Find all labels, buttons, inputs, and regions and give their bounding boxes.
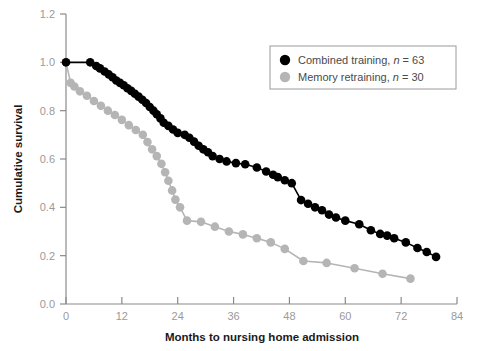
data-point-marker: [211, 222, 220, 231]
data-point-marker: [90, 97, 99, 106]
y-tick-label: 1.0: [40, 56, 55, 68]
y-tick-label: 0.0: [40, 298, 55, 310]
data-point-marker: [197, 218, 206, 227]
y-tick-label: 0.4: [40, 201, 55, 213]
data-point-marker: [168, 186, 177, 195]
data-point-marker: [413, 244, 422, 253]
legend-label-memory-retraining: Memory retraining, n = 30: [298, 71, 424, 83]
data-point-marker: [132, 126, 141, 135]
data-point-marker: [176, 203, 185, 212]
data-point-marker: [406, 274, 415, 283]
y-tick-label: 0.8: [40, 105, 55, 117]
data-point-marker: [164, 176, 173, 185]
data-point-marker: [280, 245, 289, 254]
y-tick-labels: 0.00.20.40.60.81.01.2: [40, 8, 55, 310]
series-line: [66, 62, 436, 257]
data-point-marker: [157, 160, 166, 169]
data-point-marker: [355, 220, 364, 229]
y-tick-label: 0.6: [40, 153, 55, 165]
y-tick-label: 1.2: [40, 8, 55, 20]
chart-canvas: 0.00.20.40.60.81.01.2 012243648607284 Cu…: [0, 0, 477, 351]
data-point-marker: [139, 131, 148, 140]
legend-label-combined-training: Combined training, n = 63: [298, 54, 424, 66]
data-point-marker: [152, 152, 161, 161]
data-point-marker: [402, 238, 411, 247]
data-point-marker: [341, 216, 350, 225]
data-point-marker: [111, 111, 120, 120]
x-tick-label: 48: [283, 310, 295, 322]
data-point-marker: [422, 248, 431, 257]
data-point-marker: [143, 138, 152, 147]
data-point-marker: [299, 257, 308, 266]
data-point-marker: [183, 216, 192, 225]
data-point-marker: [253, 234, 262, 243]
data-point-marker: [222, 157, 231, 166]
data-point-marker: [239, 230, 248, 239]
x-tick-labels: 012243648607284: [63, 310, 463, 322]
survival-chart-figure: 0.00.20.40.60.81.01.2 012243648607284 Cu…: [0, 0, 477, 351]
data-point-marker: [125, 121, 134, 130]
x-axis-title: Months to nursing home admission: [165, 331, 359, 343]
data-point-marker: [267, 238, 276, 247]
data-point-marker: [390, 234, 399, 243]
data-point-marker: [287, 179, 296, 188]
data-point-marker: [161, 168, 170, 177]
data-point-marker: [378, 269, 387, 278]
data-point-marker: [62, 58, 71, 67]
series-memory-retraining: [62, 58, 415, 283]
data-point-marker: [253, 163, 262, 172]
data-point-marker: [322, 259, 331, 268]
legend-marker-memory-retraining: [280, 72, 290, 82]
data-point-marker: [83, 91, 92, 100]
data-series-group: [62, 58, 441, 283]
x-tick-label: 84: [451, 310, 463, 322]
data-point-marker: [97, 102, 106, 111]
y-tick-label: 0.2: [40, 250, 55, 262]
x-tick-label: 24: [172, 310, 184, 322]
x-tick-label: 72: [395, 310, 407, 322]
y-tick-marks: [60, 14, 66, 304]
chart-legend: Combined training, n = 63 Memory retrain…: [270, 46, 456, 89]
data-point-marker: [171, 195, 180, 204]
x-tick-marks: [66, 297, 457, 304]
data-point-marker: [241, 160, 250, 169]
x-tick-label: 60: [339, 310, 351, 322]
data-point-marker: [118, 116, 127, 125]
x-tick-label: 0: [63, 310, 69, 322]
data-point-marker: [232, 159, 241, 168]
data-point-marker: [367, 226, 376, 235]
legend-marker-combined-training: [280, 55, 290, 65]
data-point-marker: [225, 227, 234, 236]
data-point-marker: [332, 213, 341, 222]
y-axis-title: Cumulative survival: [12, 105, 24, 214]
x-tick-label: 36: [227, 310, 239, 322]
data-point-marker: [350, 264, 359, 273]
series-line: [66, 62, 410, 278]
data-point-marker: [432, 253, 441, 262]
x-tick-label: 12: [116, 310, 128, 322]
